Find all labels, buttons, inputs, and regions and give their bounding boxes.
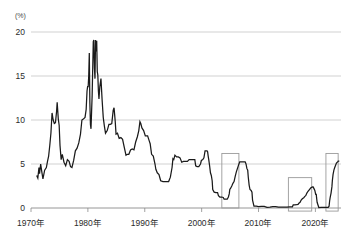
x-tick-label-2010: 2010年 <box>245 216 273 228</box>
y-tick-label-5: 5 <box>3 159 25 169</box>
y-tick-label-20: 20 <box>3 27 25 37</box>
hike-cycle-2015-2019 <box>288 178 311 211</box>
x-tick-label-1980: 1980年 <box>74 216 102 228</box>
x-tick-label-1970: 1970年 <box>17 216 45 228</box>
axis-ticks <box>31 208 315 212</box>
series-line-0 <box>37 40 340 208</box>
gridlines <box>31 32 341 208</box>
x-tick-label-1990: 1990年 <box>131 216 159 228</box>
y-tick-label-10: 10 <box>3 115 25 125</box>
x-tick-label-2000: 2000年 <box>188 216 216 228</box>
chart-plot-area <box>0 0 343 249</box>
data-series <box>37 40 340 208</box>
x-tick-label-2020: 2020年 <box>301 216 329 228</box>
y-tick-label-0: 0 <box>3 203 25 213</box>
y-tick-label-15: 15 <box>3 71 25 81</box>
federal-funds-rate-chart: (%) 05101520 1970年1980年1990年2000年2010年20… <box>0 0 343 249</box>
